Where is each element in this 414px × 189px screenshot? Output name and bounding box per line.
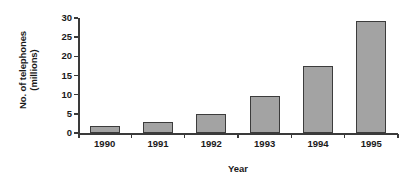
y-tick-label: 30 [61, 13, 72, 23]
bar-chart-figure: No. of telephones (millions) 05101520253… [0, 0, 414, 189]
x-axis-tick-labels: 199019911992199319941995 [78, 138, 398, 152]
y-tick-label: 0 [67, 128, 72, 138]
bar-1992 [196, 114, 226, 133]
y-tick-label: 15 [61, 71, 72, 81]
plot-area [78, 18, 398, 133]
y-tick-mark [74, 17, 78, 19]
y-tick-mark [74, 113, 78, 115]
y-tick-mark [74, 56, 78, 58]
y-tick-mark [74, 94, 78, 96]
bar-1995 [356, 21, 386, 133]
bar-1990 [90, 126, 120, 133]
y-tick-label: 25 [61, 32, 72, 42]
y-axis-tick-labels: 051015202530 [52, 13, 72, 134]
y-axis-title: No. of telephones (millions) [0, 0, 56, 140]
x-axis-title: Year [78, 163, 398, 174]
y-tick-mark [74, 36, 78, 38]
bar-1994 [303, 66, 333, 133]
x-tick-label-1990: 1990 [94, 138, 115, 150]
y-tick-mark [74, 75, 78, 77]
x-tick-label-1992: 1992 [201, 138, 222, 150]
y-axis-line [78, 18, 80, 133]
bar-1993 [250, 96, 280, 133]
y-tick-label: 20 [61, 51, 72, 61]
x-tick-label-1991: 1991 [147, 138, 168, 150]
x-tick-label-1994: 1994 [307, 138, 328, 150]
bar-1991 [143, 122, 173, 133]
y-tick-label: 5 [67, 109, 72, 119]
x-tick-label-1995: 1995 [361, 138, 382, 150]
y-axis-title-line1: No. of telephones [17, 31, 28, 109]
x-tick-label-1993: 1993 [254, 138, 275, 150]
y-tick-label: 10 [61, 90, 72, 100]
y-axis-title-line2: (millions) [28, 31, 39, 109]
